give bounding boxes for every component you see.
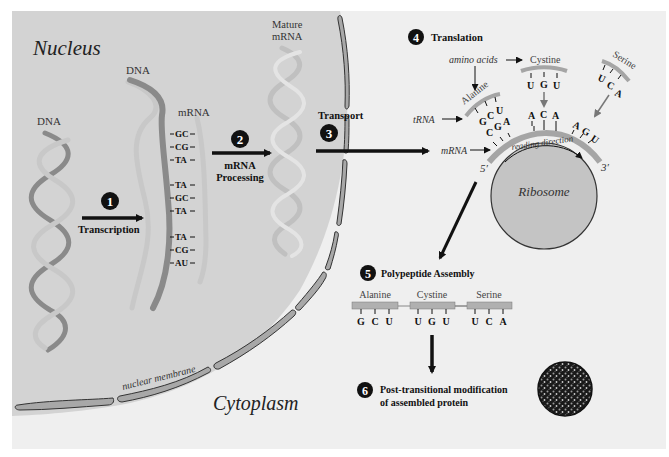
base-pair: TA [175, 155, 187, 165]
base-pair: GC [175, 129, 189, 139]
svg-text:C: C [485, 316, 492, 327]
base-pair: TA [175, 206, 187, 216]
mrna-label: mRNA [178, 106, 210, 118]
svg-text:U: U [471, 316, 478, 327]
svg-text:A: A [528, 110, 536, 121]
svg-text:U: U [553, 80, 560, 91]
folded-protein [538, 362, 592, 416]
nucleus-label: Nucleus [32, 36, 101, 60]
dna-label-left: DNA [37, 115, 61, 127]
three-prime-label: 3′ [600, 161, 610, 173]
step-6-number: 6 [362, 384, 368, 398]
svg-text:U: U [385, 316, 392, 327]
step-2-label-line2: Processing [216, 172, 264, 183]
svg-text:A: A [499, 316, 507, 327]
step-5-number: 5 [365, 267, 371, 281]
step-6-label-line1: Post-transitional modification [380, 384, 508, 395]
svg-text:U: U [527, 80, 534, 91]
step-6-label-line2: of assembled protein [380, 397, 469, 408]
svg-text:C: C [486, 127, 493, 138]
step-5-label: Polypeptide Assembly [381, 268, 475, 279]
dna-label-center: DNA [126, 64, 150, 76]
base-pair: AU [175, 258, 188, 268]
step-3-number: 3 [326, 126, 333, 141]
cytoplasm-label: Cytoplasm [213, 392, 299, 415]
trna-amino-acid: Cystine [530, 54, 561, 65]
amino-acids-label: amino acids [449, 54, 498, 65]
step-1-label: Transcription [78, 224, 140, 235]
polypeptide-chain: Alanine Cystine Serine G C U U G U U C A [352, 289, 512, 327]
polypeptide-amino-acid: Cystine [417, 289, 448, 300]
ribosome-label: Ribosome [517, 184, 570, 199]
base-pair: TA [175, 232, 187, 242]
polypeptide-amino-acid: Alanine [359, 289, 391, 300]
svg-text:U: U [442, 316, 449, 327]
base-pair: GC [175, 193, 189, 203]
base-pairs: GC CG TA TA GC TA TA CG AU [175, 129, 189, 268]
step-4-number: 4 [413, 31, 419, 45]
svg-text:A: A [503, 116, 511, 127]
mature-mrna-label-line1: Mature [272, 19, 303, 30]
base-pair: CG [175, 245, 189, 255]
step-4-label: Translation [431, 32, 483, 43]
svg-text:U: U [414, 316, 421, 327]
polypeptide-amino-acid: Serine [476, 289, 502, 300]
svg-text:C: C [540, 109, 547, 120]
svg-text:G: G [479, 116, 487, 127]
mature-mrna-label-line2: mRNA [272, 31, 303, 42]
svg-text:G: G [540, 79, 548, 90]
protein-synthesis-diagram: nuclear membrane Nucleus Cytoplasm DNA 1… [0, 0, 669, 457]
step-2-label-line1: mRNA [224, 160, 256, 171]
svg-text:A: A [552, 110, 560, 121]
step-3-label: Transport [318, 110, 364, 121]
svg-text:C: C [371, 316, 378, 327]
svg-text:U: U [496, 105, 503, 116]
svg-text:G: G [357, 316, 365, 327]
base-pair: CG [175, 142, 189, 152]
five-prime-label: 5′ [480, 162, 489, 174]
step-1-number: 1 [107, 194, 114, 209]
base-pair: TA [175, 180, 187, 190]
step-2-number: 2 [237, 132, 244, 147]
svg-text:G: G [428, 316, 436, 327]
mrna-ribosome-label: mRNA [441, 145, 468, 156]
svg-text:C: C [487, 110, 494, 121]
trna-label: tRNA [413, 114, 436, 125]
svg-text:G: G [494, 121, 502, 132]
